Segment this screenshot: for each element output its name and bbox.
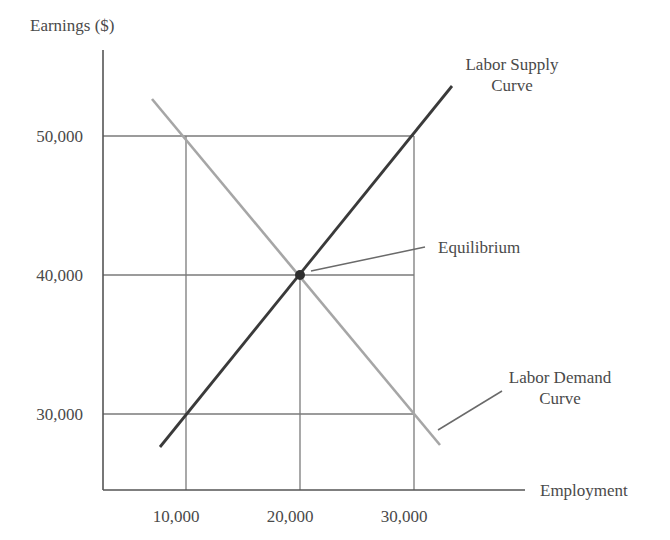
supply-curve-label-line1: Labor Supply	[465, 55, 559, 74]
x-tick-10000: 10,000	[153, 507, 200, 526]
supply-curve-label-line2: Curve	[491, 76, 533, 95]
demand-curve-label-line2: Curve	[539, 389, 581, 408]
y-tick-50000: 50,000	[36, 127, 83, 146]
demand-curve-label-line1: Labor Demand	[509, 368, 612, 387]
x-axis-title: Employment	[540, 481, 628, 500]
equilibrium-point	[295, 270, 305, 280]
demand-leader	[438, 391, 502, 430]
labor-market-chart: Earnings ($) Employment 50,000 40,000 30…	[0, 0, 670, 540]
equilibrium-label: Equilibrium	[438, 238, 520, 257]
x-tick-30000: 30,000	[381, 507, 428, 526]
equilibrium-leader	[311, 247, 425, 271]
y-tick-40000: 40,000	[36, 266, 83, 285]
y-tick-30000: 30,000	[36, 405, 83, 424]
labor-supply-curve	[160, 86, 452, 447]
x-tick-20000: 20,000	[267, 507, 314, 526]
y-axis-title: Earnings ($)	[30, 16, 115, 35]
